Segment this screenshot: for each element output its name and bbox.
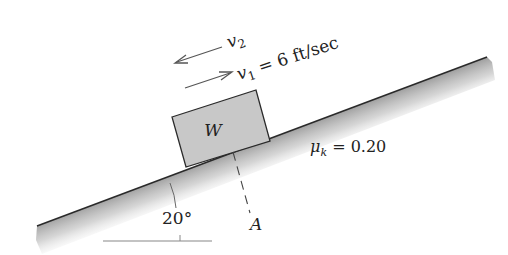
reference-point-label: A (248, 214, 262, 234)
incline-ground-shading (36, 57, 495, 254)
velocity-v1-arrow (185, 72, 232, 88)
incline-diagram: W v2 v1 = 6 ft/sec μk = 0.20 20° A (0, 0, 508, 255)
velocity-v2-label: v2 (224, 27, 248, 54)
velocity-v2-arrow (175, 47, 222, 63)
angle-label: 20° (162, 208, 192, 228)
block-label: W (204, 120, 223, 140)
velocity-v1-label: v1 = 6 ft/sec (234, 32, 342, 87)
